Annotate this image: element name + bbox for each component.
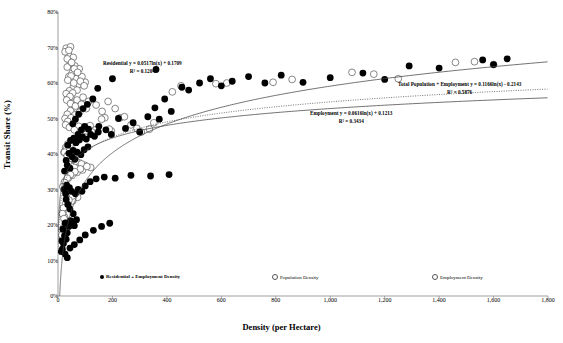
data-point	[69, 120, 76, 127]
legend-item-population: Population Density	[272, 274, 318, 280]
data-point	[80, 105, 87, 112]
data-point	[144, 113, 151, 120]
data-point	[65, 47, 72, 54]
data-point	[63, 236, 70, 243]
data-point	[87, 178, 94, 185]
data-point	[106, 220, 113, 227]
data-point	[70, 80, 77, 87]
data-point	[64, 254, 71, 261]
data-point	[109, 75, 116, 82]
data-point	[327, 74, 334, 81]
data-point	[93, 102, 100, 109]
annotation-total-r2: R² = 0.5876	[398, 89, 521, 97]
data-point	[245, 73, 252, 80]
legend-marker-open-icon	[432, 274, 438, 280]
data-point	[98, 116, 105, 123]
data-point	[136, 129, 143, 136]
data-point	[161, 96, 168, 103]
data-point	[99, 108, 106, 115]
trendline-employment	[58, 89, 547, 249]
data-point	[152, 104, 159, 111]
data-point	[168, 108, 175, 115]
legend-label-population: Population Density	[280, 275, 318, 280]
data-point	[101, 174, 108, 181]
data-point	[381, 76, 388, 83]
data-point	[71, 241, 78, 248]
data-point	[147, 173, 154, 180]
data-point	[122, 125, 129, 132]
data-point	[108, 131, 115, 138]
data-point	[64, 142, 71, 149]
data-point	[207, 75, 214, 82]
data-point	[504, 55, 511, 62]
data-point	[169, 88, 176, 95]
data-point	[93, 175, 100, 182]
data-point	[185, 87, 192, 94]
data-point	[115, 115, 122, 122]
data-point	[64, 229, 71, 236]
data-point	[270, 79, 277, 86]
data-point	[112, 105, 119, 112]
data-point	[128, 172, 135, 179]
data-point	[278, 72, 285, 79]
annotation-total: Total Population + Employment y = 0.1166…	[398, 81, 521, 96]
data-point	[261, 80, 268, 87]
data-point	[289, 76, 296, 83]
data-point	[300, 79, 307, 86]
trendline-residential	[58, 98, 547, 232]
data-point	[90, 227, 97, 234]
legend-item-residential-employment: Residential + Employment Density	[100, 274, 180, 279]
data-point	[112, 175, 119, 182]
annotation-residential-equation: Residential y = 0.0517ln(x) + 0.1709	[103, 60, 182, 68]
plot-area	[0, 0, 563, 343]
data-point	[370, 71, 377, 78]
data-point	[83, 163, 90, 170]
data-point	[359, 70, 366, 77]
data-point	[166, 171, 173, 178]
data-point	[95, 123, 102, 130]
data-point	[103, 126, 110, 133]
data-point	[89, 96, 96, 103]
annotation-residential-r2: R² = 0.1204	[103, 68, 182, 76]
data-point	[156, 116, 163, 123]
data-point	[82, 232, 89, 239]
data-point	[436, 65, 443, 72]
data-point	[479, 57, 486, 64]
data-point	[81, 82, 88, 89]
data-point	[406, 63, 413, 70]
data-point	[63, 157, 70, 164]
data-point	[471, 58, 478, 65]
legend-label-employment: Employment Density	[440, 275, 483, 280]
annotation-employment-equation: Employment y = 0.0616ln(x) + 0.1213	[310, 110, 392, 118]
annotation-total-equation: Total Population + Employment y = 0.1166…	[398, 81, 521, 89]
data-point	[130, 119, 137, 126]
annotation-employment: Employment y = 0.0616ln(x) + 0.1213 R² =…	[310, 110, 392, 125]
data-point	[94, 85, 101, 92]
data-point	[121, 113, 128, 120]
data-point	[196, 80, 203, 87]
annotation-employment-r2: R² = 0.3434	[310, 118, 392, 126]
data-point	[218, 82, 225, 89]
legend-item-employment: Employment Density	[432, 274, 483, 280]
data-point	[98, 223, 105, 230]
legend-marker-filled-icon	[100, 275, 104, 279]
annotation-residential: Residential y = 0.0517ln(x) + 0.1709 R² …	[103, 60, 182, 75]
data-point	[229, 78, 236, 85]
data-point	[349, 69, 356, 76]
data-point	[178, 84, 185, 91]
data-point	[76, 237, 83, 244]
scatter-chart: Transit Share (%) Density (per Hectare) …	[0, 0, 563, 343]
data-point	[452, 59, 459, 66]
axis-lines	[58, 12, 548, 296]
legend-label-residential-employment: Residential + Employment Density	[106, 274, 180, 279]
data-point	[68, 59, 75, 66]
data-point	[71, 222, 78, 229]
legend-marker-open-icon	[272, 274, 278, 280]
data-point	[105, 98, 112, 105]
data-point	[74, 69, 81, 76]
data-point	[73, 216, 80, 223]
